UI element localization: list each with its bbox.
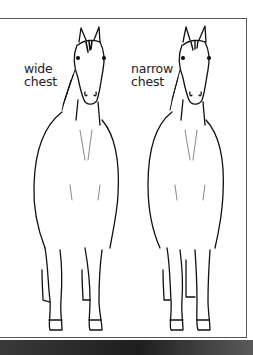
label-narrow-chest: narrow chest [131,62,173,88]
label-wide-chest: wide chest [24,62,57,88]
label-wide-line2: chest [24,75,57,88]
label-narrow-line2: chest [131,75,173,88]
horse-narrow-chest-drawing [0,0,253,355]
bottom-dark-band [0,340,253,355]
